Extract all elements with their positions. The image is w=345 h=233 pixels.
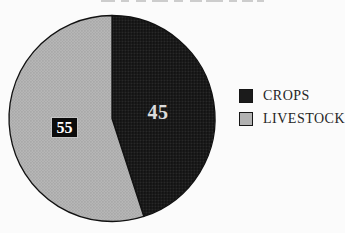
legend-item-crops: CROPS bbox=[239, 89, 345, 102]
legend-label-livestock: LIVESTOCK bbox=[263, 111, 345, 127]
slice-value-label-crops: 45 bbox=[144, 101, 172, 124]
legend: CROPS LIVESTOCK bbox=[239, 89, 345, 125]
slice-value-box-livestock: 55 bbox=[52, 118, 77, 137]
legend-swatch-crops bbox=[239, 89, 253, 103]
legend-swatch-livestock bbox=[239, 112, 253, 126]
legend-item-livestock: LIVESTOCK bbox=[239, 112, 345, 125]
legend-label-crops: CROPS bbox=[263, 88, 310, 104]
pie-chart-figure: 45 55 CROPS LIVESTOCK bbox=[0, 0, 345, 233]
slice-value-label-livestock: 55 bbox=[57, 119, 73, 137]
